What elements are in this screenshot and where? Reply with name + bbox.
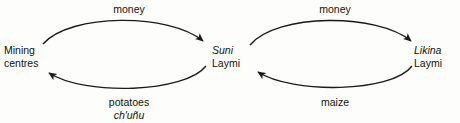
node-suni-laymi-line2: Laymi <box>212 57 240 69</box>
node-suni-laymi: Suni Laymi <box>212 44 240 69</box>
edge-label-mining-to-suni-text: money <box>113 3 145 15</box>
edge-label-mining-to-suni: money <box>94 3 164 16</box>
node-mining-centres: Mining centres <box>4 44 38 69</box>
arrow-suni-to-mining <box>49 66 206 88</box>
arrow-mining-to-suni <box>43 20 203 44</box>
arrow-suni-to-likina <box>250 20 411 45</box>
node-mining-centres-line2: centres <box>4 57 38 69</box>
node-mining-centres-line1: Mining <box>4 44 35 56</box>
edge-label-suni-to-likina-text: money <box>319 3 351 15</box>
node-likina-laymi: Likina Laymi <box>414 44 442 69</box>
arrow-likina-to-suni <box>258 66 412 87</box>
edge-label-suni-to-mining: potatoes ch'uñu <box>92 96 166 121</box>
node-likina-laymi-line2: Laymi <box>414 57 442 69</box>
node-suni-laymi-line1: Suni <box>212 44 233 56</box>
edge-label-likina-to-suni: maize <box>300 96 370 109</box>
edge-label-likina-to-suni-text: maize <box>321 96 349 108</box>
edge-label-suni-to-mining-line1: potatoes <box>109 96 149 108</box>
exchange-cycle-diagram: Suni Laymi --> Likina Laymi --> Mining c… <box>0 0 460 123</box>
node-likina-laymi-line1: Likina <box>414 44 441 56</box>
edge-label-suni-to-mining-line2: ch'uñu <box>114 109 145 121</box>
edge-label-suni-to-likina: money <box>300 3 370 16</box>
